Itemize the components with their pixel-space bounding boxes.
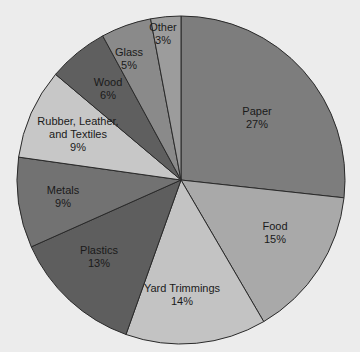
pie-chart: Paper27%Food15%Yard Trimmings14%Plastics… xyxy=(0,0,360,352)
slice-label: Paper27% xyxy=(242,105,272,130)
slice-label: Food15% xyxy=(262,220,287,245)
